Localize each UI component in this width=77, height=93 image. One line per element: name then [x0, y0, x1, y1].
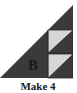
hst-unit-top	[48, 30, 73, 53]
quilt-block-diagram: B Make 4	[0, 0, 77, 93]
caption: Make 4	[20, 80, 56, 92]
hst-unit-bottom	[48, 54, 73, 78]
block-label: B	[28, 57, 38, 73]
